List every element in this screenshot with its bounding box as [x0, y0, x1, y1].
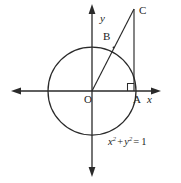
circle-equation: x2+y2=1: [108, 137, 148, 148]
unit-circle-diagram: C B y O A x x2+y2=1: [0, 0, 181, 183]
x-axis-left-arrow-icon: [11, 88, 21, 95]
right-angle-marker-icon: [128, 84, 135, 92]
label-point-o: O: [84, 94, 92, 105]
diagram-canvas: [0, 0, 181, 183]
equation-value: 1: [140, 136, 147, 147]
x-axis-right-arrow-icon: [151, 88, 161, 95]
y-axis-bottom-arrow-icon: [89, 167, 96, 177]
equation-plus: +: [116, 136, 124, 147]
segment-oc: [92, 9, 134, 91]
label-point-c: C: [139, 5, 146, 16]
label-axis-y: y: [100, 13, 105, 24]
y-axis-top-arrow-icon: [89, 4, 96, 14]
label-point-a: A: [133, 94, 141, 105]
label-point-b: B: [103, 31, 110, 42]
label-axis-x: x: [147, 94, 152, 105]
point-b-marker: [113, 47, 115, 49]
